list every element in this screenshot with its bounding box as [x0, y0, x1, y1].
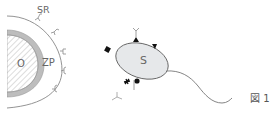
circle-marker-icon	[134, 78, 139, 83]
sperm-cell	[104, 28, 232, 103]
label-sperm-receptor: SR	[37, 5, 50, 15]
square-marker-icon	[104, 46, 111, 53]
receptor-y-icon	[60, 49, 66, 54]
free-receptor-y-icon	[112, 92, 122, 100]
label-sperm: S	[140, 55, 147, 66]
receptor-y-icon	[51, 29, 59, 35]
triangle-marker-icon	[133, 37, 139, 42]
receptor-y-icon	[35, 14, 42, 21]
receptor-y-icon	[133, 28, 139, 37]
sperm-tail	[166, 71, 232, 103]
label-oocyte: O	[17, 59, 25, 69]
star-marker-icon	[124, 79, 130, 84]
label-zona-pellucida: ZP	[42, 58, 55, 68]
figure-caption: 図 1	[250, 94, 270, 104]
